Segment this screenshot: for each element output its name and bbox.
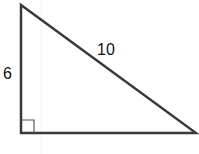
triangle-outline [21,5,196,133]
right-triangle-diagram: 6 10 [0,0,199,154]
hypotenuse-label: 10 [97,41,115,58]
vertical-leg-label: 6 [3,65,12,82]
right-angle-marker [21,120,34,133]
